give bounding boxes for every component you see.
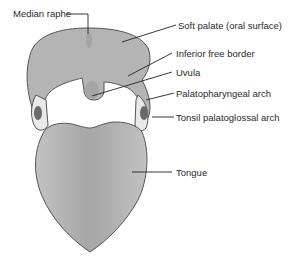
median-raphe-shading xyxy=(86,32,92,48)
leader-palatopharyngeal-arch xyxy=(146,93,174,100)
label-tonsil-palatoglossal-arch: Tonsil palatoglossal arch xyxy=(176,113,280,123)
label-palatopharyngeal-arch: Palatopharyngeal arch xyxy=(176,89,271,99)
label-median-raphe: Median raphe xyxy=(13,9,71,19)
uvula-shape xyxy=(85,81,99,99)
tongue-shape xyxy=(36,122,147,252)
right-tonsil-shape xyxy=(140,106,148,120)
label-soft-palate: Soft palate (oral surface) xyxy=(178,21,282,31)
label-tongue: Tongue xyxy=(176,168,207,178)
left-tonsil-shape xyxy=(34,106,42,120)
label-inferior-free-border: Inferior free border xyxy=(176,49,255,59)
anatomy-diagram xyxy=(0,0,303,263)
label-uvula: Uvula xyxy=(176,68,200,78)
